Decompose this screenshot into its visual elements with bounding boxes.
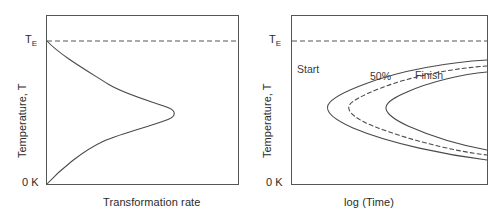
y-tick-te-right-sub: E bbox=[276, 39, 281, 48]
curve-finish bbox=[386, 72, 487, 150]
curve-label-finish: Finish bbox=[415, 69, 443, 81]
figure-root: TE 0 K Temperature, T Transformation rat… bbox=[0, 0, 503, 222]
y-tick-zerok-right: 0 K bbox=[266, 176, 283, 188]
y-tick-te-right-main: T bbox=[269, 33, 276, 45]
y-tick-te-left-sub: E bbox=[32, 39, 37, 48]
transformation-rate-curve bbox=[47, 41, 174, 184]
transformation-rate-panel: TE 0 K Temperature, T Transformation rat… bbox=[0, 0, 251, 222]
curve-label-start: Start bbox=[297, 63, 319, 75]
y-tick-zerok-left: 0 K bbox=[22, 176, 39, 188]
x-axis-title-left: Transformation rate bbox=[103, 196, 200, 208]
y-tick-te-left: TE bbox=[25, 33, 37, 45]
ttt-diagram-panel: TE 0 K Temperature, T log (Time) Start 5… bbox=[251, 0, 503, 222]
transformation-rate-plot bbox=[0, 0, 251, 222]
x-axis-title-right: log (Time) bbox=[344, 196, 394, 208]
y-axis-title-right: Temperature, T bbox=[261, 84, 273, 158]
curve-label-fifty-percent: 50% bbox=[370, 70, 391, 82]
ttt-diagram-plot bbox=[251, 0, 503, 222]
y-tick-te-right: TE bbox=[269, 33, 281, 45]
y-axis-title-left: Temperature, T bbox=[16, 84, 28, 158]
y-tick-te-left-main: T bbox=[25, 33, 32, 45]
